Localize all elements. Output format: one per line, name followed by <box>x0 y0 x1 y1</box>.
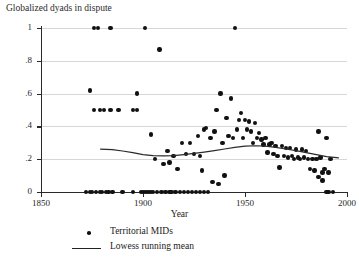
y-axis-label: .6 <box>6 88 32 98</box>
legend-label: Territorial MIDs <box>110 226 173 236</box>
legend: Territorial MIDs Lowess running mean <box>70 226 300 256</box>
x-axis-title: Year <box>0 209 359 219</box>
legend-label: Lowess running mean <box>110 241 194 251</box>
y-axis-label: .8 <box>6 55 32 65</box>
legend-dot-icon <box>87 231 91 235</box>
lowess-curve <box>41 28 349 194</box>
x-axis-label: 1900 <box>123 198 163 208</box>
y-axis-label: .2 <box>6 153 32 163</box>
legend-item-territorial-mids: Territorial MIDs <box>70 226 300 241</box>
y-axis-label: .4 <box>6 120 32 130</box>
x-axis-label: 1950 <box>225 198 265 208</box>
x-axis-label: 1850 <box>21 198 61 208</box>
y-axis-label: 1 <box>6 22 32 32</box>
figure: Globalized dyads in dispute Year Territo… <box>0 0 359 271</box>
y-axis-label: 0 <box>6 186 32 196</box>
legend-line-icon <box>72 248 101 249</box>
lowess-path <box>100 146 339 158</box>
chart-title: Globalized dyads in dispute <box>6 3 112 13</box>
legend-item-lowess: Lowess running mean <box>70 241 300 256</box>
x-axis-label: 2000 <box>327 198 359 208</box>
